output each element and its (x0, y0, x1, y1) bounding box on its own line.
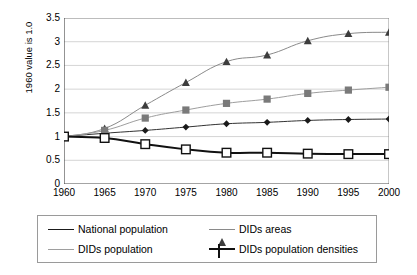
data-point-dids-areas (141, 101, 149, 108)
data-point-dids-population-densities (385, 150, 389, 159)
x-tick-label: 1995 (328, 188, 368, 198)
data-point-dids-population (142, 114, 149, 121)
legend-swatch-dids-population (48, 244, 74, 254)
data-point-dids-areas (223, 58, 231, 65)
x-tick-label: 2000 (369, 188, 409, 198)
data-point-dids-population (223, 100, 230, 107)
data-point-dids-population (182, 106, 189, 113)
legend-swatch-dids-areas (209, 224, 235, 234)
plot-area (64, 18, 389, 184)
y-axis-tick-labels: 3.5 3 2.5 2 1.5 1 0.5 0 (30, 0, 60, 190)
data-point-dids-population-densities (344, 150, 353, 159)
x-tick-label: 1980 (207, 188, 247, 198)
x-tick-label: 1990 (288, 188, 328, 198)
chart-legend: National population DIDs areas DIDs popu… (37, 215, 377, 263)
y-tick-label: 3.5 (32, 13, 60, 23)
data-point-dids-population (385, 84, 389, 91)
triangle-icon (218, 226, 226, 246)
data-point-national-population (386, 116, 389, 123)
y-tick-label: 2.5 (32, 60, 60, 70)
legend-item-dids-areas[interactable]: DIDs areas (209, 223, 370, 235)
data-point-dids-population-densities (100, 134, 109, 143)
data-point-dids-population-densities (141, 140, 150, 149)
y-tick-label: 1 (32, 132, 60, 142)
legend-item-dids-population-densities[interactable]: DIDs population densities (209, 243, 370, 255)
x-tick-label: 1985 (247, 188, 287, 198)
x-tick-label: 1960 (44, 188, 84, 198)
data-point-dids-population-densities (182, 145, 191, 154)
legend-label: DIDs population densities (239, 243, 358, 255)
data-point-dids-population-densities (64, 132, 68, 141)
x-tick-label: 1965 (85, 188, 125, 198)
data-point-dids-population-densities (303, 149, 312, 158)
legend-label: DIDs population (78, 243, 153, 255)
data-point-national-population (304, 117, 311, 124)
data-point-dids-population (101, 127, 108, 134)
data-point-national-population (345, 116, 352, 123)
data-point-dids-population (304, 90, 311, 97)
data-point-national-population (223, 120, 230, 127)
y-tick-label: 2 (32, 84, 60, 94)
y-tick-label: 0.5 (32, 155, 60, 165)
legend-item-national-population[interactable]: National population (48, 223, 209, 235)
x-axis-tick-labels: 1960 1965 1970 1975 1980 1985 1990 1995 … (0, 188, 417, 206)
legend-label: National population (78, 223, 168, 235)
legend-swatch-national-population (48, 224, 74, 234)
y-tick-label: 3 (32, 37, 60, 47)
chart-container: 1960 value is 1.0 3.5 3 2.5 2 1.5 1 0.5 … (0, 0, 417, 275)
data-point-dids-population-densities (222, 148, 231, 157)
data-point-dids-population-densities (263, 148, 272, 157)
legend-swatch-dids-population-densities (209, 244, 235, 254)
data-point-dids-population (264, 96, 271, 103)
data-point-dids-areas (182, 79, 190, 86)
open-square-icon (218, 244, 220, 258)
legend-item-dids-population[interactable]: DIDs population (48, 243, 209, 255)
data-point-national-population (182, 124, 189, 131)
x-tick-label: 1975 (166, 188, 206, 198)
data-point-dids-population (345, 86, 352, 93)
data-point-national-population (264, 119, 271, 126)
data-point-national-population (142, 127, 149, 134)
y-tick-label: 1.5 (32, 108, 60, 118)
x-tick-label: 1970 (125, 188, 165, 198)
legend-label: DIDs areas (239, 223, 292, 235)
series-line-dids-population (64, 87, 389, 136)
